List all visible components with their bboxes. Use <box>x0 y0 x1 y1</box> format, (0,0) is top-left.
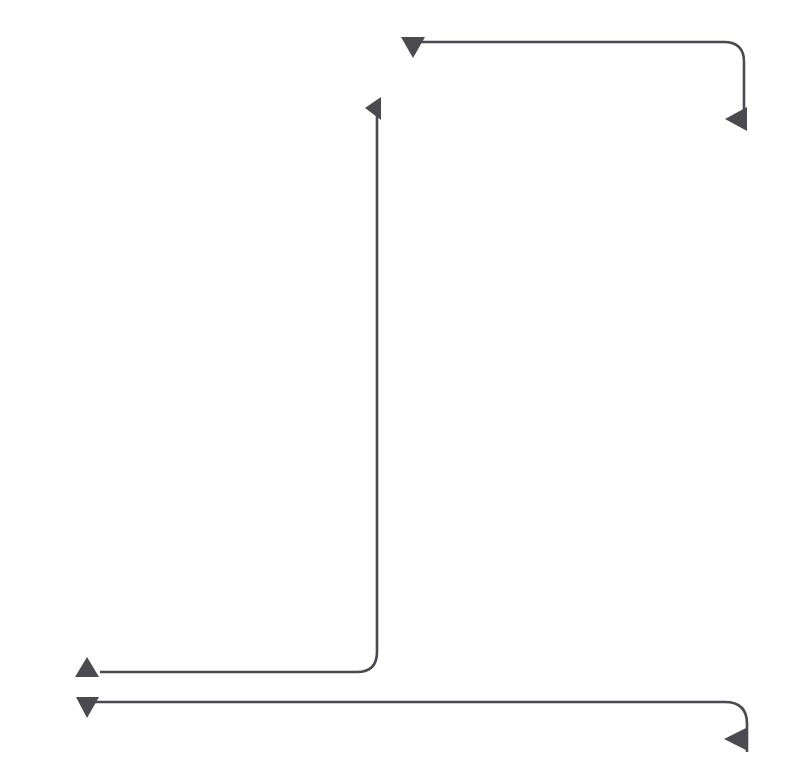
arrowhead-down-icon <box>76 697 99 718</box>
connector-bottom-line <box>87 702 747 752</box>
connector-top-line <box>413 42 744 128</box>
arrowhead-up-icon <box>75 657 99 677</box>
connector-top[interactable] <box>401 37 747 131</box>
diagram-svg <box>0 0 792 760</box>
connector-bottom[interactable] <box>76 697 748 752</box>
connector-elbow[interactable] <box>75 97 381 677</box>
diagram-canvas <box>0 0 792 760</box>
arrowhead-left-icon <box>725 107 747 131</box>
arrowhead-left-icon <box>365 97 381 120</box>
arrowhead-down-icon <box>401 37 425 58</box>
arrowhead-left-icon <box>724 727 748 751</box>
connector-elbow-line <box>100 104 377 672</box>
